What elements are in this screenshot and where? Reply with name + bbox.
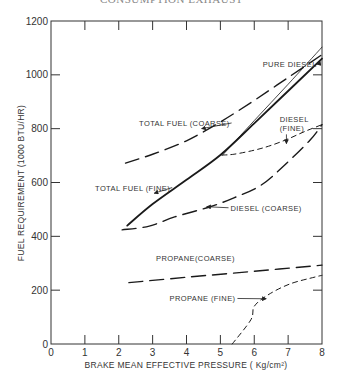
series-propane-coarse (129, 265, 322, 282)
annotation-label: DIESEL (280, 115, 309, 124)
series-total-fuel-fine (127, 59, 322, 226)
y-axis-title: FUEL REQUIREMENT (1000 BTU/HR) (16, 105, 26, 261)
annotation-label: TOTAL FUEL (FINE) (95, 184, 170, 193)
y-tick-label: 1200 (26, 16, 49, 27)
annotation-label: PROPANE (FINE) (170, 294, 236, 303)
x-tick-label: 6 (251, 347, 257, 358)
y-tick-label: 400 (31, 231, 48, 242)
x-tick-label: 2 (116, 347, 122, 358)
y-tick-label: 1000 (26, 69, 49, 80)
annotation-label: TOTAL FUEL (COARSE) (139, 119, 230, 128)
x-axis-title: BRAKE MEAN EFFECTIVE PRESSURE ( Kg/cm²) (85, 360, 288, 370)
annotation-label: (FINE) (280, 124, 305, 133)
series-total-fuel-coarse (126, 55, 322, 163)
annotation-arrow-icon (207, 207, 229, 208)
y-tick-label: 800 (31, 123, 48, 134)
y-tick-label: 0 (42, 339, 48, 350)
annotation-label: PROPANE(COARSE) (156, 254, 235, 263)
x-tick-label: 5 (218, 347, 224, 358)
y-tick-label: 600 (31, 177, 48, 188)
x-tick-label: 0 (48, 347, 54, 358)
y-tick-label: 200 (31, 285, 48, 296)
x-tick-label: 7 (285, 347, 291, 358)
series-propane-fine (232, 275, 322, 344)
series-diesel-coarse (122, 125, 322, 230)
annotations: PURE DIESELTOTAL FUEL (COARSE)DIESEL(FIN… (95, 60, 319, 304)
x-tick-label: 3 (150, 347, 156, 358)
x-tick-label: 1 (82, 347, 88, 358)
annotation-label: DIESEL (COARSE) (231, 204, 302, 213)
x-tick-label: 8 (319, 347, 325, 358)
annotation-label: PURE DIESEL (263, 60, 317, 69)
fuel-requirement-chart: 012345678020040060080010001200 PURE DIES… (0, 0, 341, 388)
x-tick-label: 4 (184, 347, 190, 358)
